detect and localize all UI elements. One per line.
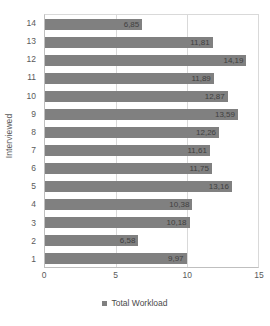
y-axis-tick: 7 — [18, 141, 40, 159]
y-axis-tick: 12 — [18, 50, 40, 68]
bar-value-label: 13,16 — [209, 182, 229, 191]
bar-value-label: 11,61 — [187, 146, 206, 155]
bar-value-label: 13,59 — [215, 110, 235, 119]
y-axis-title-label: Interviewed — [4, 114, 14, 159]
bar[interactable]: 12,87 — [45, 91, 228, 102]
bar[interactable]: 10,38 — [45, 199, 192, 210]
y-axis-tick: 9 — [18, 105, 40, 123]
legend-swatch-icon — [102, 301, 107, 306]
y-axis-tick: 14 — [18, 14, 40, 32]
y-axis-tick: 5 — [18, 177, 40, 195]
y-axis-tick: 10 — [18, 87, 40, 105]
y-axis-tick: 4 — [18, 195, 40, 213]
bar-row: 6,58 — [45, 231, 258, 249]
x-axis-tick-labels: 051015 — [44, 270, 259, 286]
bar-row: 12,87 — [45, 87, 258, 105]
bar-value-label: 6,85 — [124, 20, 140, 29]
x-axis-tick: 10 — [183, 270, 192, 280]
bar[interactable]: 11,81 — [45, 37, 213, 48]
bar-value-label: 10,18 — [167, 218, 187, 227]
bar[interactable]: 6,85 — [45, 19, 142, 30]
bar-row: 14,19 — [45, 51, 258, 69]
bar-value-label: 9,97 — [168, 254, 184, 263]
x-axis-tick: 15 — [254, 270, 263, 280]
bar-value-label: 11,89 — [191, 74, 210, 83]
bar[interactable]: 11,75 — [45, 163, 212, 174]
y-axis-tick: 13 — [18, 32, 40, 50]
bar[interactable]: 6,58 — [45, 235, 138, 246]
y-axis-tick: 2 — [18, 232, 40, 250]
bar-row: 11,81 — [45, 33, 258, 51]
x-axis-tick: 0 — [42, 270, 47, 280]
chart-legend: Total Workload — [0, 298, 270, 308]
bar-row: 10,38 — [45, 195, 258, 213]
y-axis-tick: 11 — [18, 68, 40, 86]
bar[interactable]: 14,19 — [45, 55, 246, 66]
y-axis-tick: 6 — [18, 159, 40, 177]
bar-row: 6,85 — [45, 15, 258, 33]
y-axis-tick: 1 — [18, 250, 40, 268]
bar-row: 10,18 — [45, 213, 258, 231]
legend-entry-label: Total Workload — [111, 298, 167, 308]
bar-row: 9,97 — [45, 249, 258, 267]
gridline — [258, 15, 259, 267]
y-axis-tick-labels: 1413121110987654321 — [18, 14, 40, 268]
bar-value-label: 11,81 — [190, 38, 209, 47]
bar[interactable]: 13,16 — [45, 181, 232, 192]
bar-row: 12,26 — [45, 123, 258, 141]
bar-row: 13,59 — [45, 105, 258, 123]
bar-row: 11,61 — [45, 141, 258, 159]
bar[interactable]: 11,61 — [45, 145, 210, 156]
bar-value-label: 6,58 — [120, 236, 136, 245]
bar-value-label: 11,75 — [189, 164, 208, 173]
bar-series-total-workload: 6,8511,8114,1911,8912,8713,5912,2611,611… — [45, 15, 258, 267]
y-axis-tick: 8 — [18, 123, 40, 141]
bar[interactable]: 9,97 — [45, 253, 187, 264]
bar-row: 13,16 — [45, 177, 258, 195]
bar[interactable]: 12,26 — [45, 127, 219, 138]
bar-value-label: 10,38 — [169, 200, 189, 209]
bar-row: 11,89 — [45, 69, 258, 87]
y-axis-tick: 3 — [18, 214, 40, 232]
bar-value-label: 12,87 — [205, 92, 225, 101]
bar[interactable]: 10,18 — [45, 217, 190, 228]
bar-row: 11,75 — [45, 159, 258, 177]
bar-chart: Interviewed 1413121110987654321 6,8511,8… — [0, 0, 270, 326]
bar[interactable]: 11,89 — [45, 73, 214, 84]
x-axis-tick: 5 — [113, 270, 118, 280]
y-axis-title: Interviewed — [0, 0, 18, 272]
bar-value-label: 14,19 — [223, 56, 243, 65]
bar[interactable]: 13,59 — [45, 109, 238, 120]
plot-area: 6,8511,8114,1911,8912,8713,5912,2611,611… — [44, 14, 259, 268]
bar-value-label: 12,26 — [196, 128, 216, 137]
